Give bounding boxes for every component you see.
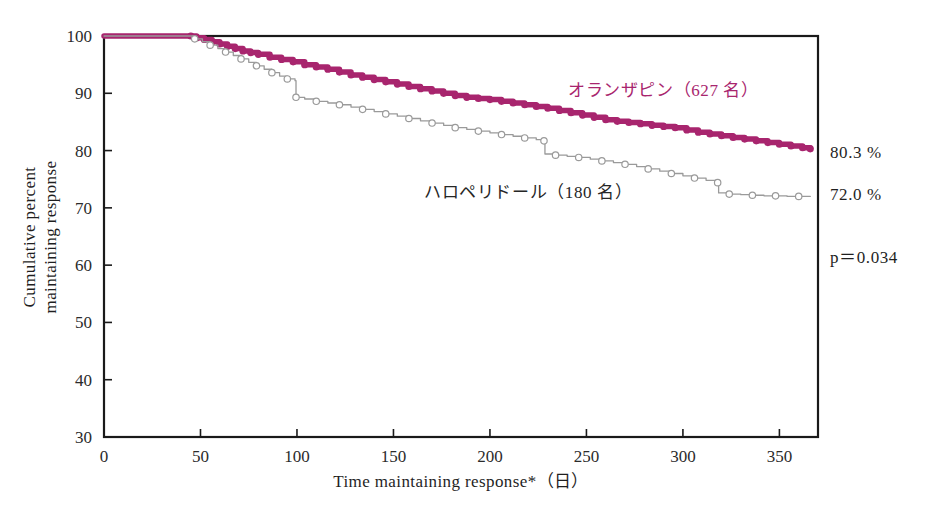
censor-marker-olanzapine bbox=[764, 139, 771, 146]
censor-marker-olanzapine bbox=[301, 61, 308, 68]
censor-marker-olanzapine bbox=[753, 137, 760, 144]
censor-marker-haloperidol bbox=[191, 36, 197, 42]
y-tick-label-90: 90 bbox=[75, 84, 92, 103]
x-tick-label-250: 250 bbox=[574, 447, 600, 466]
censor-marker-olanzapine bbox=[625, 119, 632, 126]
x-tick-label-300: 300 bbox=[670, 447, 696, 466]
censor-marker-olanzapine bbox=[776, 141, 783, 148]
censor-marker-olanzapine bbox=[290, 58, 297, 65]
annotation-olanzapine-endpoint: 80.3 % bbox=[830, 143, 882, 162]
censor-marker-haloperidol bbox=[796, 193, 802, 199]
censor-marker-olanzapine bbox=[706, 130, 713, 137]
censor-marker-olanzapine bbox=[510, 99, 517, 106]
y-tick-label-100: 100 bbox=[67, 27, 93, 46]
censor-marker-olanzapine bbox=[255, 51, 262, 58]
y-tick-label-40: 40 bbox=[75, 371, 92, 390]
censor-marker-olanzapine bbox=[371, 76, 378, 83]
censor-marker-haloperidol bbox=[552, 152, 558, 158]
censor-marker-haloperidol bbox=[498, 131, 504, 137]
censor-marker-olanzapine bbox=[452, 92, 459, 99]
censor-marker-olanzapine bbox=[440, 90, 447, 97]
chart-figure: 30405060708090100 050100150200250300350 … bbox=[0, 0, 927, 514]
censor-marker-haloperidol bbox=[406, 115, 412, 121]
censor-marker-haloperidol bbox=[668, 170, 674, 176]
censor-marker-haloperidol bbox=[284, 76, 290, 82]
y-axis-title-line2: maintaining response bbox=[41, 161, 60, 314]
x-tick-label-100: 100 bbox=[284, 447, 310, 466]
censor-marker-olanzapine bbox=[695, 129, 702, 136]
censor-marker-haloperidol bbox=[622, 161, 628, 167]
censor-marker-olanzapine bbox=[324, 66, 331, 73]
annotation-haloperidol-endpoint: 72.0 % bbox=[830, 185, 882, 204]
censor-marker-olanzapine bbox=[278, 56, 285, 63]
censor-marker-haloperidol bbox=[293, 94, 299, 100]
censor-marker-olanzapine bbox=[637, 120, 644, 127]
censor-marker-haloperidol bbox=[475, 128, 481, 134]
censor-marker-olanzapine bbox=[463, 94, 470, 101]
censor-marker-olanzapine bbox=[579, 111, 586, 118]
censor-marker-olanzapine bbox=[648, 122, 655, 129]
x-tick-label-50: 50 bbox=[192, 447, 209, 466]
censor-marker-haloperidol bbox=[521, 135, 527, 141]
censor-marker-olanzapine bbox=[247, 49, 254, 56]
censor-marker-olanzapine bbox=[313, 63, 320, 70]
censor-marker-olanzapine bbox=[475, 95, 482, 102]
censor-marker-haloperidol bbox=[452, 124, 458, 130]
censor-marker-haloperidol bbox=[336, 102, 342, 108]
censor-marker-olanzapine bbox=[498, 98, 505, 105]
censor-marker-haloperidol bbox=[313, 98, 319, 104]
censor-marker-olanzapine bbox=[428, 87, 435, 94]
censor-marker-olanzapine bbox=[718, 132, 725, 139]
x-tick-label-350: 350 bbox=[767, 447, 793, 466]
censor-marker-haloperidol bbox=[726, 191, 732, 197]
censor-marker-olanzapine bbox=[787, 142, 794, 149]
censor-marker-haloperidol bbox=[207, 42, 213, 48]
censor-marker-olanzapine bbox=[266, 54, 273, 61]
censor-marker-haloperidol bbox=[238, 56, 244, 62]
censor-marker-olanzapine bbox=[591, 114, 598, 121]
annotation-p-value: p＝0.034 bbox=[830, 248, 898, 267]
censor-marker-olanzapine bbox=[486, 96, 493, 103]
censor-marker-olanzapine bbox=[614, 118, 621, 125]
censor-marker-olanzapine bbox=[741, 136, 748, 143]
censor-marker-haloperidol bbox=[253, 63, 259, 69]
legend-label-haloperidol: ハロペリドール（180 名） bbox=[424, 183, 632, 202]
survival-curve-chart: 30405060708090100 050100150200250300350 … bbox=[0, 0, 927, 514]
y-tick-label-30: 30 bbox=[75, 428, 92, 447]
y-tick-label-50: 50 bbox=[75, 313, 92, 332]
censor-marker-haloperidol bbox=[269, 69, 275, 75]
x-axis-title: Time maintaining response*（日） bbox=[333, 472, 589, 491]
censor-marker-haloperidol bbox=[359, 106, 365, 112]
censor-marker-haloperidol bbox=[645, 166, 651, 172]
censor-marker-olanzapine bbox=[544, 105, 551, 112]
censor-marker-haloperidol bbox=[772, 193, 778, 199]
censor-marker-haloperidol bbox=[599, 158, 605, 164]
censor-marker-haloperidol bbox=[714, 179, 720, 185]
censor-marker-olanzapine bbox=[382, 78, 389, 85]
y-axis-title: Cumulative percent maintaining response bbox=[20, 161, 60, 314]
censor-marker-olanzapine bbox=[394, 81, 401, 88]
legend-label-olanzapine: オランザピン（627 名） bbox=[568, 81, 759, 100]
censor-marker-olanzapine bbox=[239, 47, 246, 54]
x-tick-label-0: 0 bbox=[100, 447, 109, 466]
censor-marker-olanzapine bbox=[799, 144, 806, 151]
censor-marker-haloperidol bbox=[691, 175, 697, 181]
censor-marker-olanzapine bbox=[347, 71, 354, 78]
censor-marker-olanzapine bbox=[660, 123, 667, 130]
y-tick-label-60: 60 bbox=[75, 256, 92, 275]
censor-marker-olanzapine bbox=[359, 74, 366, 81]
censor-marker-haloperidol bbox=[576, 154, 582, 160]
censor-marker-haloperidol bbox=[749, 192, 755, 198]
censor-marker-olanzapine bbox=[232, 45, 239, 52]
censor-marker-haloperidol bbox=[429, 120, 435, 126]
y-tick-label-80: 80 bbox=[75, 142, 92, 161]
censor-marker-olanzapine bbox=[672, 124, 679, 131]
censor-marker-olanzapine bbox=[556, 107, 563, 114]
censor-marker-olanzapine bbox=[807, 145, 814, 152]
censor-marker-olanzapine bbox=[533, 103, 540, 110]
censor-marker-olanzapine bbox=[567, 109, 574, 116]
censor-marker-olanzapine bbox=[729, 134, 736, 141]
x-tick-label-150: 150 bbox=[381, 447, 407, 466]
censor-marker-olanzapine bbox=[405, 83, 412, 90]
censor-marker-haloperidol bbox=[222, 49, 228, 55]
